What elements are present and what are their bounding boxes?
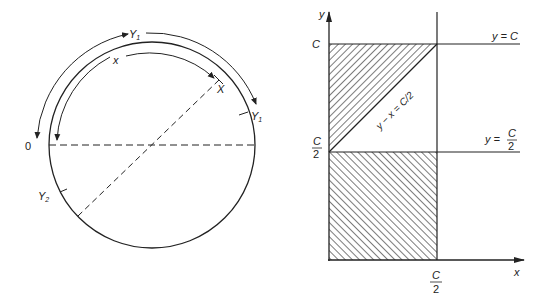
tick-c-half-y-label: C 2 bbox=[312, 135, 322, 160]
svg-text:y =: y = bbox=[484, 133, 501, 145]
diagram-canvas: 0 Y1 x X Y1 Y2 y x C C bbox=[0, 0, 553, 306]
svg-text:2: 2 bbox=[508, 140, 514, 152]
point-y1-label: Y1 bbox=[251, 110, 262, 123]
circle-diagram: 0 Y1 x X Y1 Y2 bbox=[25, 28, 262, 248]
svg-text:C: C bbox=[508, 127, 516, 139]
line-y-c-label: y = C bbox=[491, 30, 518, 42]
svg-text:C: C bbox=[313, 135, 321, 147]
tick-c-half-x-label: C 2 bbox=[430, 269, 442, 295]
point-y2-label: Y2 bbox=[38, 190, 49, 203]
y-axis-label: y bbox=[318, 8, 326, 20]
tick-c-label: C bbox=[312, 38, 320, 50]
arc-x-left bbox=[57, 57, 110, 140]
svg-text:C: C bbox=[432, 269, 440, 281]
region-plot: y x C C 2 C 2 y = C y = C 2 y − x = C/2 bbox=[312, 8, 524, 295]
svg-text:2: 2 bbox=[433, 283, 439, 295]
arc-x-label: x bbox=[112, 54, 119, 66]
origin-label: 0 bbox=[25, 140, 31, 152]
tick-y2 bbox=[60, 189, 67, 192]
point-x-label: X bbox=[216, 83, 225, 95]
svg-text:2: 2 bbox=[313, 148, 319, 160]
x-axis-label: x bbox=[513, 266, 520, 278]
line-y-half-label: y = C 2 bbox=[484, 127, 517, 152]
tick-y1 bbox=[239, 112, 248, 115]
diagonal-diameter bbox=[78, 80, 219, 216]
arc-y1-label: Y1 bbox=[129, 28, 140, 41]
arc-x-right bbox=[126, 53, 214, 78]
lower-hatched-rectangle bbox=[329, 152, 437, 260]
